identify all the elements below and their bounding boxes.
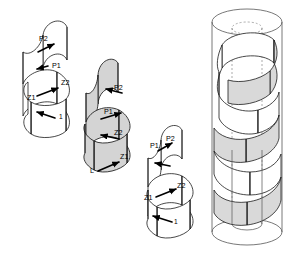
label-l: L (90, 166, 94, 175)
label-z2: Z2 (61, 78, 69, 87)
label-z1: Z1 (120, 152, 128, 161)
figure-root: P2 P1 Z2 Z1 1 P2 P1 Z2 Z1 L (0, 0, 284, 258)
cylinder-ribbons (214, 33, 281, 226)
label-one: 1 (174, 218, 178, 225)
cylinder-top-rim (212, 9, 282, 35)
label-p1: P1 (150, 141, 159, 150)
label-p1: P1 (52, 61, 61, 70)
label-one: 1 (59, 113, 63, 120)
panel-right-helix: P1 P2 Z2 Z1 1 (144, 125, 193, 238)
ribbon-band (228, 71, 270, 105)
panel-cylinder-assembly (212, 9, 282, 245)
label-z2: Z2 (114, 128, 122, 137)
ribbon-band (217, 45, 222, 95)
label-z1: Z1 (144, 193, 152, 202)
cylinder-bottom-rim-front (212, 232, 282, 245)
label-p2: P2 (39, 34, 48, 43)
label-z2: Z2 (177, 181, 185, 190)
label-p2: P2 (166, 134, 175, 143)
ribbon-segment (98, 59, 118, 104)
panel-left-helix: P2 P1 Z2 Z1 1 (23, 21, 69, 138)
panel-middle-helix: P2 P1 Z2 Z1 L (84, 59, 130, 175)
label-p1: P1 (104, 107, 113, 116)
ribbon-band (214, 190, 247, 225)
label-z1: Z1 (27, 93, 35, 102)
label-p2: P2 (114, 83, 123, 92)
ribbon-band (222, 33, 274, 68)
helical-ribbon-figure: P2 P1 Z2 Z1 1 P2 P1 Z2 Z1 L (0, 0, 284, 258)
